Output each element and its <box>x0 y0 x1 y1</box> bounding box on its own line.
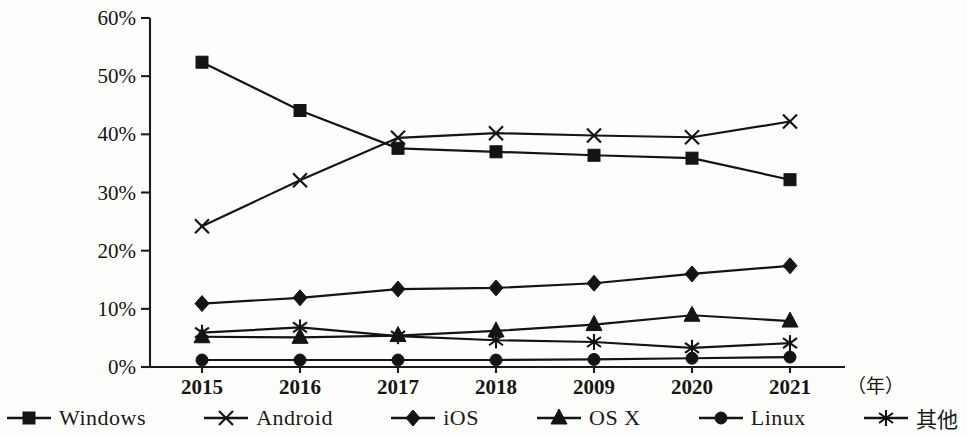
series-linux <box>196 351 796 366</box>
data-point-marker-square <box>294 104 306 116</box>
legend-item-label: Windows <box>56 405 146 431</box>
legend-marker-asterisk <box>863 407 909 429</box>
legend-item-其他[interactable]: 其他 <box>863 403 959 433</box>
legend-item-label: iOS <box>440 405 479 431</box>
x-axis-tick-label: 2017 <box>377 375 419 399</box>
legend-item-os-x[interactable]: OS X <box>536 405 641 431</box>
data-point-marker-diamond <box>685 266 699 282</box>
legend-marker-square <box>6 407 52 429</box>
legend-item-linux[interactable]: Linux <box>698 405 806 431</box>
data-point-marker-triangle <box>782 312 798 327</box>
data-point-marker-square <box>588 149 600 161</box>
legend-marker-triangle <box>536 407 582 429</box>
data-point-marker-square <box>490 146 502 158</box>
y-axis-tick-label: 10% <box>98 297 137 321</box>
x-axis-tick-label: 2009 <box>573 375 615 399</box>
x-axis-tick-label: 2015 <box>181 375 223 399</box>
legend-item-label: Android <box>253 405 333 431</box>
series-line <box>202 62 790 179</box>
legend-marker-circle <box>698 407 744 429</box>
legend-item-label: OS X <box>586 405 641 431</box>
legend-marker-glyph-square <box>23 412 35 424</box>
data-point-marker-square <box>196 56 208 68</box>
legend-item-label: 其他 <box>913 403 959 433</box>
legend-item-label: Linux <box>748 405 806 431</box>
series-ios <box>195 258 797 312</box>
data-point-marker-diamond <box>489 280 503 296</box>
data-point-marker-circle <box>784 351 796 363</box>
y-axis-tick-label: 0% <box>108 355 136 379</box>
os-market-share-line-chart: 0%10%20%30%40%50%60%20152016201720182009… <box>0 0 967 437</box>
x-axis-tick-label: 2018 <box>475 375 517 399</box>
chart-legend: WindowsAndroidiOSOS XLinux其他 <box>0 398 967 437</box>
legend-marker-glyph-triangle <box>551 409 567 424</box>
x-axis-tick-label: 2020 <box>671 375 713 399</box>
legend-item-windows[interactable]: Windows <box>6 405 146 431</box>
y-axis-tick-label: 20% <box>98 239 137 263</box>
data-point-marker-square <box>392 142 404 154</box>
legend-item-android[interactable]: Android <box>203 405 333 431</box>
data-point-marker-square <box>784 174 796 186</box>
data-point-marker-triangle <box>684 306 700 321</box>
data-point-marker-diamond <box>195 296 209 312</box>
y-axis-tick-label: 30% <box>98 181 137 205</box>
data-point-marker-diamond <box>293 290 307 306</box>
chart-plot-area: 0%10%20%30%40%50%60%20152016201720182009… <box>0 0 967 400</box>
data-point-marker-circle <box>392 354 404 366</box>
data-point-marker-circle <box>294 354 306 366</box>
y-axis-tick-label: 50% <box>98 64 137 88</box>
y-axis-tick-label: 40% <box>98 122 137 146</box>
data-point-marker-square <box>686 152 698 164</box>
data-point-marker-diamond <box>587 275 601 291</box>
data-point-marker-circle <box>490 354 502 366</box>
chart-axes <box>150 18 845 367</box>
legend-marker-diamond <box>390 407 436 429</box>
x-axis-tick-label: 2016 <box>279 375 321 399</box>
series-line <box>202 122 790 227</box>
legend-item-ios[interactable]: iOS <box>390 405 479 431</box>
legend-marker-glyph-circle <box>715 412 727 424</box>
data-point-marker-diamond <box>783 258 797 274</box>
data-point-marker-diamond <box>391 281 405 297</box>
x-axis-unit-label: （年） <box>847 376 904 397</box>
y-axis-tick-label: 60% <box>98 6 137 30</box>
legend-marker-x <box>203 407 249 429</box>
data-point-marker-circle <box>588 353 600 365</box>
x-axis-tick-label: 2021 <box>769 375 811 399</box>
series-windows <box>196 56 796 185</box>
data-point-marker-circle <box>196 354 208 366</box>
legend-marker-glyph-diamond <box>406 410 420 426</box>
series-android <box>195 115 797 234</box>
